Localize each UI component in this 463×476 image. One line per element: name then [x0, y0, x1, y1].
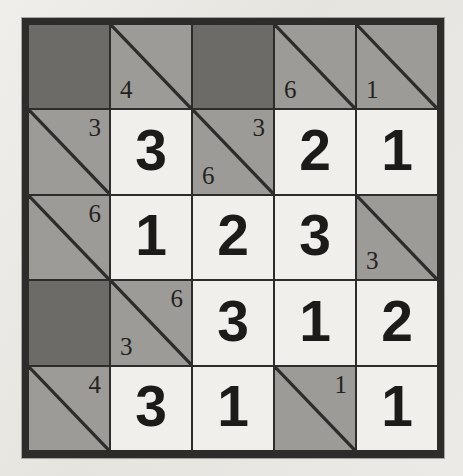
down-clue-number: 3	[120, 334, 133, 359]
across-clue-number: 1	[335, 372, 348, 397]
across-clue-number: 3	[89, 115, 102, 140]
clue-cell: 6	[29, 196, 109, 279]
clue-cell: 3	[357, 196, 437, 279]
across-clue-number: 3	[253, 115, 266, 140]
answer-value: 1	[111, 196, 191, 279]
across-clue-number: 4	[89, 372, 102, 397]
answer-value: 2	[193, 196, 273, 279]
down-clue-number: 3	[366, 248, 379, 273]
answer-cell[interactable]: 1	[357, 367, 437, 450]
clue-cell: 63	[111, 281, 191, 364]
down-clue-number: 6	[284, 77, 297, 102]
answer-cell[interactable]: 3	[275, 196, 355, 279]
answer-cell[interactable]: 1	[111, 196, 191, 279]
down-clue-number: 1	[366, 77, 379, 102]
clue-cell: 36	[193, 110, 273, 193]
across-clue-number: 6	[171, 286, 184, 311]
blocked-cell	[29, 25, 109, 108]
answer-cell[interactable]: 1	[275, 281, 355, 364]
answer-value: 1	[275, 281, 355, 364]
answer-cell[interactable]: 2	[275, 110, 355, 193]
answer-value: 3	[111, 110, 191, 193]
answer-value: 3	[275, 196, 355, 279]
answer-cell[interactable]: 3	[193, 281, 273, 364]
clue-cell: 1	[357, 25, 437, 108]
across-clue-number: 6	[89, 201, 102, 226]
answer-value: 2	[357, 281, 437, 364]
answer-value: 3	[193, 281, 273, 364]
answer-cell[interactable]: 1	[193, 367, 273, 450]
answer-value: 1	[357, 110, 437, 193]
puzzle-grid: 461333621612336331243111	[29, 25, 437, 450]
answer-value: 1	[193, 367, 273, 450]
blocked-cell	[193, 25, 273, 108]
down-clue-number: 6	[202, 163, 215, 188]
clue-cell: 4	[111, 25, 191, 108]
answer-value: 2	[275, 110, 355, 193]
clue-cell: 3	[29, 110, 109, 193]
answer-cell[interactable]: 2	[357, 281, 437, 364]
answer-cell[interactable]: 3	[111, 367, 191, 450]
answer-cell[interactable]: 3	[111, 110, 191, 193]
answer-value: 1	[357, 367, 437, 450]
answer-cell[interactable]: 1	[357, 110, 437, 193]
clue-cell: 1	[275, 367, 355, 450]
clue-cell: 6	[275, 25, 355, 108]
puzzle-frame: 461333621612336331243111	[22, 18, 444, 458]
down-clue-number: 4	[120, 77, 133, 102]
answer-value: 3	[111, 367, 191, 450]
blocked-cell	[29, 281, 109, 364]
answer-cell[interactable]: 2	[193, 196, 273, 279]
clue-cell: 4	[29, 367, 109, 450]
